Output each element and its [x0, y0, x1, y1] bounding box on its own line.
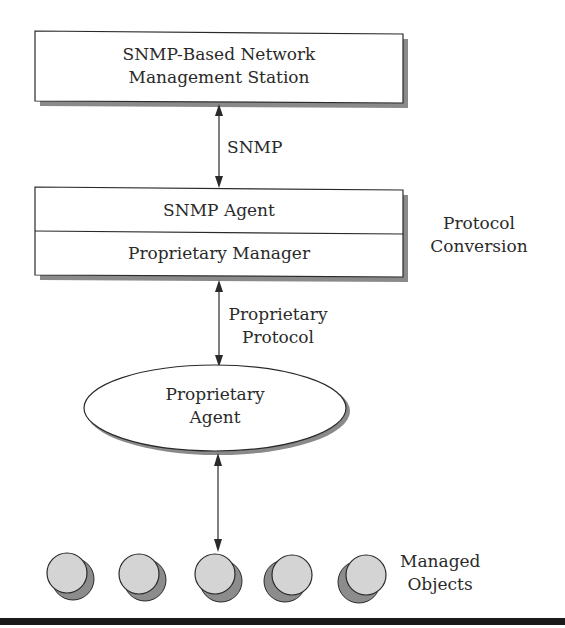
- snmp-link-arrow: [215, 104, 223, 188]
- snmp-link-label: SNMP: [227, 136, 282, 159]
- proprietary-protocol-line1: Proprietary: [222, 303, 334, 326]
- proprietary-agent-line2: Agent: [115, 406, 315, 429]
- managed-object-4: [264, 555, 312, 602]
- managed-objects-line2: Objects: [400, 573, 480, 596]
- bottom-rule: [0, 618, 565, 625]
- managed-objects-line1: Managed: [400, 550, 480, 573]
- nms-box-label-line2: Management Station: [35, 66, 403, 89]
- arrowhead-down-icon: [215, 176, 223, 188]
- proprietary-agent-line1: Proprietary: [115, 383, 315, 406]
- protocol-conversion-label: Protocol Conversion: [424, 212, 534, 258]
- snmp-agent-label: SNMP Agent: [35, 199, 403, 222]
- arrowhead-down-icon: [214, 539, 222, 552]
- nms-box-label: SNMP-Based Network Management Station: [35, 43, 403, 89]
- nms-box-label-line1: SNMP-Based Network: [35, 43, 403, 66]
- managed-object-5: [338, 555, 386, 603]
- managed-object-3: [195, 554, 242, 602]
- managed-object-1: [47, 553, 94, 600]
- protocol-conversion-line2: Conversion: [424, 235, 534, 258]
- managed-objects-label: Managed Objects: [400, 550, 480, 596]
- diagram-canvas: SNMP-Based Network Management Station SN…: [0, 0, 565, 628]
- proprietary-protocol-line2: Protocol: [222, 326, 334, 349]
- managed-object-2: [119, 554, 166, 601]
- proprietary-protocol-label: Proprietary Protocol: [222, 303, 334, 349]
- proprietary-agent-label: Proprietary Agent: [115, 383, 315, 429]
- proprietary-manager-label: Proprietary Manager: [35, 242, 403, 265]
- protocol-conversion-line1: Protocol: [424, 212, 534, 235]
- managed-objects: [47, 553, 386, 603]
- objects-link-arrow: [214, 453, 222, 552]
- arrowhead-up-icon: [215, 280, 223, 292]
